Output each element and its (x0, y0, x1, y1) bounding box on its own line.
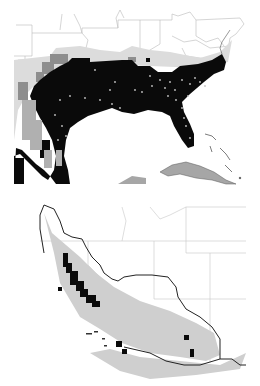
map-panel-southwest (0, 193, 260, 386)
yucatan-edge (118, 176, 146, 184)
cuba-island (160, 162, 236, 184)
southwest-map (0, 193, 260, 386)
map-panel-southeast (0, 0, 260, 193)
southeast-map (0, 0, 260, 193)
channel-islands (86, 331, 107, 347)
